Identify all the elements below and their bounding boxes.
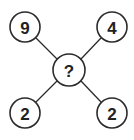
node-center-unknown-value: ?	[64, 62, 74, 81]
node-top-left: 9	[10, 12, 40, 42]
edge-top-left	[36, 38, 57, 59]
node-top-left-value: 9	[20, 19, 29, 38]
node-top-right-value: 4	[107, 19, 117, 38]
node-bottom-left-value: 2	[20, 105, 29, 124]
node-bottom-right-value: 2	[107, 105, 116, 124]
number-puzzle-diagram: 9 4 2 2 ?	[0, 0, 134, 140]
node-bottom-left: 2	[10, 98, 40, 128]
edge-top-right	[81, 38, 101, 59]
node-top-right: 4	[97, 12, 127, 42]
node-center: ?	[53, 54, 85, 86]
edge-bottom-left	[36, 81, 57, 102]
edge-bottom-right	[81, 81, 101, 102]
node-bottom-right: 2	[97, 98, 127, 128]
